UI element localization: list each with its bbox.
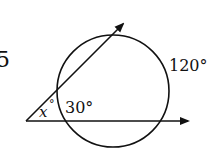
angle-x-label: x: [39, 103, 48, 121]
outer-arc-label: 120°: [169, 56, 208, 75]
problem-number: 5: [0, 47, 10, 72]
inner-arc-label: 30°: [65, 98, 93, 117]
circle: [57, 35, 169, 147]
angle-x-degree: °: [49, 98, 55, 111]
secant-diagram: 5 x ° 30° 120°: [0, 0, 221, 157]
